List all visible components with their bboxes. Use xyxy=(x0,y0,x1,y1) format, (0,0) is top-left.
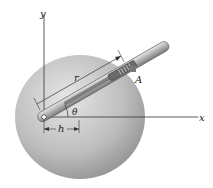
theta-label: θ xyxy=(72,107,78,117)
h-label: h xyxy=(58,123,64,134)
diagram-canvas: y x r A θ h xyxy=(0,0,213,188)
pin-a xyxy=(130,66,136,72)
y-axis-label: y xyxy=(39,8,46,19)
point-a-label: A xyxy=(134,74,142,85)
mechanism-diagram: y x r A θ h xyxy=(0,0,213,188)
r-arrowhead xyxy=(115,56,121,61)
x-axis-label: x xyxy=(199,112,205,123)
